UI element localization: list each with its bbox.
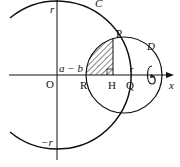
label-origin: O (46, 78, 54, 90)
label-r-right: r (130, 64, 134, 74)
label-point-q: Q (126, 79, 134, 91)
label-point-p: P (116, 27, 122, 39)
x-axis-arrow-icon (166, 72, 174, 78)
label-a-minus-b: a − b (59, 62, 83, 74)
hatched-region (86, 38, 113, 75)
label-axis-x: x (168, 79, 174, 91)
label-circle-d: D (146, 40, 155, 52)
label-r-bottom: −r (41, 136, 53, 148)
label-point-h: H (108, 79, 116, 91)
diagram-canvas: O C D P R H Q x r −r r a − b (0, 0, 180, 167)
label-r-top: r (50, 3, 55, 15)
label-point-r: R (80, 79, 88, 91)
label-circle-c: C (95, 0, 103, 9)
